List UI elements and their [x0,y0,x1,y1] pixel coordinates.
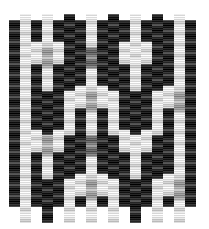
weave-cell-dark-bead [119,152,130,163]
weave-cell-dark-bead [53,108,64,119]
weave-cell-dark-bead [97,163,108,174]
weave-cell-dark-bead [163,20,174,31]
weave-cell-dark-bead [31,163,42,174]
weave-cell-dark-bead [42,201,53,212]
weave-cell-light-bead [119,42,130,53]
weave-cell-dark-bead [152,135,163,146]
weave-cell-dark-bead [130,113,141,124]
weave-cell-mid-light-bead [174,190,185,201]
weave-cell-dark-bead [31,20,42,31]
weave-cell-dark-bead [185,185,196,196]
weave-cell-dark-bead [31,196,42,207]
weave-cell-light-bead [174,146,185,157]
weave-cell-mid-light-bead [42,146,53,157]
weave-cell-dark-bead [9,53,20,64]
weave-pattern-canvas [0,0,209,229]
weave-cell-light-bead [130,25,141,36]
weave-cell-light-bead [152,212,163,223]
weave-cell-light-bead [42,168,53,179]
weave-cell-dark-bead [31,64,42,75]
weave-cell-light-bead [86,212,97,223]
weave-cell-light-bead [152,113,163,124]
weave-cell-dark-bead [108,58,119,69]
weave-cell-light-bead [97,174,108,185]
weave-cell-dark-bead [9,97,20,108]
weave-cell-dark-bead [108,168,119,179]
weave-cell-light-bead [42,80,53,91]
weave-cell-dark-bead [152,14,163,25]
weave-cell-light-bead [86,80,97,91]
weave-cell-light-bead [20,91,31,102]
weave-cell-light-bead [20,168,31,179]
weave-cell-dark-bead [9,196,20,207]
weave-cell-mid-light-bead [174,179,185,190]
weave-cell-dark-bead [97,152,108,163]
weave-cell-dark-bead [9,64,20,75]
weave-cell-light-bead [20,124,31,135]
weave-cell-dark-bead [119,20,130,31]
weave-cell-dark-bead [97,20,108,31]
weave-cell-dark-bead [163,141,174,152]
weave-cell-dark-bead [108,14,119,25]
weave-cell-light-bead [20,212,31,223]
weave-cell-dark-bead [97,31,108,42]
weave-cell-light-bead [141,53,152,64]
weave-cell-light-bead [75,86,86,97]
weave-cell-dark-bead [31,152,42,163]
weave-cell-dark-bead [75,196,86,207]
weave-cell-light-bead [42,69,53,80]
weave-cell-dark-bead [108,47,119,58]
weave-cell-light-bead [130,135,141,146]
weave-cell-light-bead [53,42,64,53]
weave-cell-light-bead [20,201,31,212]
weave-cell-light-bead [130,36,141,47]
weave-cell-light-bead [64,102,75,113]
weave-cell-light-bead [108,113,119,124]
weave-cell-dark-bead [185,31,196,42]
weave-cell-light-bead [75,97,86,108]
weave-cell-dark-bead [119,64,130,75]
weave-cell-dark-bead [42,113,53,124]
weave-cell-light-bead [174,58,185,69]
weave-cell-dark-bead [64,146,75,157]
weave-cell-dark-bead [9,42,20,53]
weave-cell-dark-bead [119,174,130,185]
weave-cell-light-bead [152,102,163,113]
weave-cell-dark-bead [75,119,86,130]
weave-cell-dark-bead [97,196,108,207]
weave-cell-dark-bead [9,31,20,42]
weave-cell-light-bead [20,36,31,47]
weave-cell-dark-bead [64,80,75,91]
weave-cell-dark-bead [31,86,42,97]
weave-cell-dark-bead [185,75,196,86]
weave-cell-dark-bead [53,185,64,196]
weave-cell-dark-bead [64,168,75,179]
weave-cell-light-bead [174,25,185,36]
weave-cell-dark-bead [64,135,75,146]
weave-cell-dark-bead [64,47,75,58]
weave-cell-light-bead [20,179,31,190]
weave-cell-dark-bead [75,64,86,75]
weave-cell-light-bead [42,36,53,47]
weave-cell-dark-bead [152,80,163,91]
weave-cell-dark-bead [42,212,53,223]
weave-cell-light-bead [163,185,174,196]
weave-cell-light-bead [174,201,185,212]
weave-cell-dark-bead [163,108,174,119]
weave-cell-dark-bead [9,86,20,97]
weave-cell-dark-bead [119,163,130,174]
weave-cell-dark-bead [119,196,130,207]
weave-cell-dark-bead [185,108,196,119]
weave-cell-dark-bead [130,91,141,102]
weave-cell-light-bead [174,69,185,80]
weave-cell-light-bead [108,201,119,212]
weave-cell-light-bead [174,47,185,58]
weave-cell-dark-bead [9,108,20,119]
weave-cell-light-bead [163,86,174,97]
weave-cell-dark-bead [64,25,75,36]
weave-cell-dark-bead [31,108,42,119]
weave-cell-dark-bead [31,75,42,86]
weave-cell-dark-bead [141,31,152,42]
weave-cell-light-bead [86,69,97,80]
weave-cell-light-bead [86,168,97,179]
